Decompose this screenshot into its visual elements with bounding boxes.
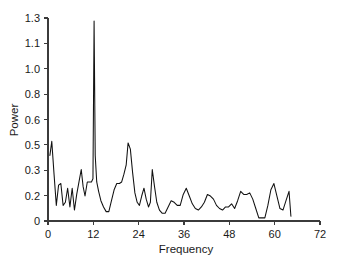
- y-tick-label: 1.1: [25, 37, 40, 49]
- y-tick-label: 0.3: [25, 164, 40, 176]
- y-tick-label: 1.3: [25, 12, 40, 24]
- power-spectrum-chart: 00.20.30.50.60.81.01.11.3 0122436486072 …: [0, 0, 344, 268]
- y-tick-label: 0.2: [25, 190, 40, 202]
- chart-plot-area: 00.20.30.50.60.81.01.11.3 0122436486072 …: [0, 0, 344, 268]
- x-tick-label: 12: [87, 228, 99, 240]
- y-tick-label: 0.6: [25, 114, 40, 126]
- x-tick-label: 36: [178, 228, 190, 240]
- y-tick-label: 0.5: [25, 139, 40, 151]
- x-tick-label: 72: [314, 228, 326, 240]
- y-axis-tick-labels: 00.20.30.50.60.81.01.11.3: [25, 12, 40, 227]
- x-tick-label: 60: [269, 228, 281, 240]
- chart-background: [0, 0, 344, 268]
- y-tick-label: 0: [34, 215, 40, 227]
- x-tick-label: 24: [133, 228, 145, 240]
- x-tick-label: 48: [223, 228, 235, 240]
- y-axis-title: Power: [8, 104, 20, 137]
- y-tick-label: 0.8: [25, 88, 40, 100]
- y-tick-label: 1.0: [25, 63, 40, 75]
- x-axis-title: Frequency: [159, 243, 214, 255]
- x-tick-label: 0: [45, 228, 51, 240]
